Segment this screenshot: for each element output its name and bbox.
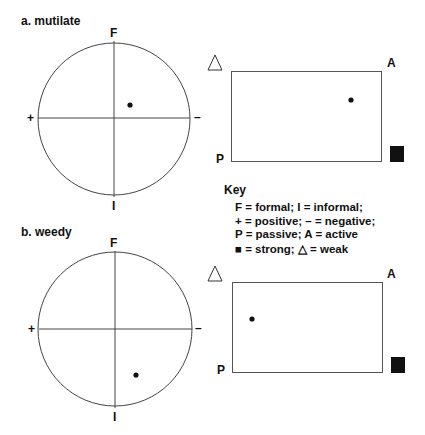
panel-title-a: a. mutilate (21, 14, 80, 28)
informal-label-b: I (113, 410, 116, 424)
strong-square-icon (390, 146, 404, 162)
negative-label-b: – (195, 321, 202, 335)
key-line-formality: F = formal; I = informal; (235, 201, 363, 213)
formal-label-b: F (110, 236, 117, 250)
passive-label-b: P (217, 363, 225, 377)
key-title: Key (224, 183, 246, 197)
weak-triangle-icon (208, 266, 222, 281)
strong-square-icon (391, 357, 405, 373)
key-line-strength: ■ = strong; △ = weak (235, 242, 348, 256)
negative-label-a: – (194, 110, 201, 124)
activity-rect-b (233, 283, 383, 373)
data-point-rect-a (348, 97, 353, 102)
key-line-polarity: + = positive; – = negative; (235, 215, 375, 227)
active-label-b: A (387, 267, 396, 281)
activity-rect-a (232, 72, 382, 162)
key-line-activity: P = passive; A = active (235, 228, 358, 240)
weak-triangle-icon (208, 55, 222, 70)
active-label-a: A (387, 56, 396, 70)
formal-label-a: F (110, 26, 117, 40)
panel-title-b: b. weedy (21, 225, 72, 239)
positive-label-b: + (28, 322, 35, 336)
informal-label-a: I (112, 199, 115, 213)
positive-label-a: + (27, 111, 34, 125)
data-point-circle-a (127, 102, 132, 107)
data-point-rect-b (249, 316, 254, 321)
data-point-circle-b (133, 372, 138, 377)
passive-label-a: P (216, 152, 224, 166)
